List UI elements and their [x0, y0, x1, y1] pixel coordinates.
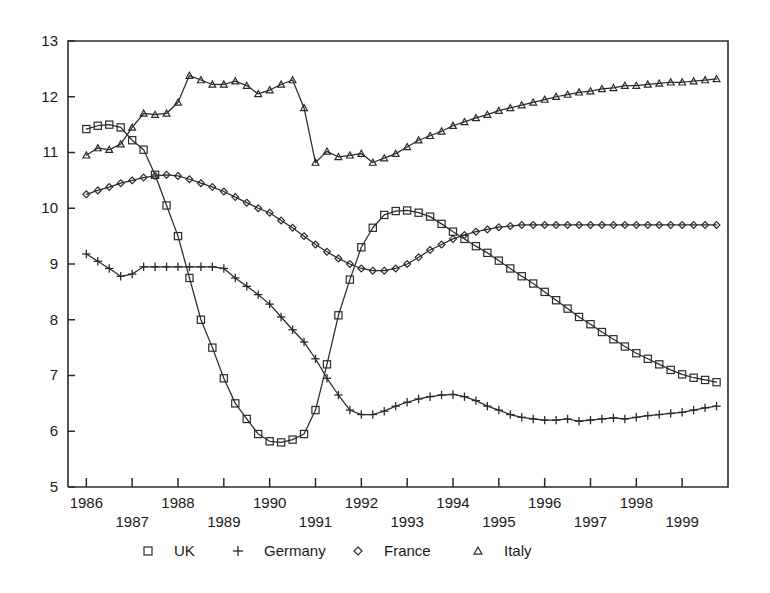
- legend-label: UK: [174, 542, 195, 559]
- x-tick-label: 1989: [207, 513, 240, 530]
- x-tick-label: 1999: [665, 513, 698, 530]
- x-axis-ticks: 1986198719881989199019911992199319941995…: [70, 478, 699, 530]
- y-tick-label: 12: [41, 88, 58, 105]
- x-tick-label: 1988: [161, 494, 194, 511]
- x-tick-label: 1994: [436, 494, 469, 511]
- y-tick-label: 5: [50, 478, 58, 495]
- series-italy: [83, 72, 720, 165]
- y-tick-label: 6: [50, 422, 58, 439]
- legend-label: France: [384, 542, 431, 559]
- x-tick-label: 1995: [482, 513, 515, 530]
- series-france: [83, 171, 720, 274]
- x-tick-label: 1997: [574, 513, 607, 530]
- chart-figure: 5678910111213 19861987198819891990199119…: [0, 0, 770, 593]
- marker-square: [144, 547, 152, 555]
- marker-triangle: [474, 547, 482, 554]
- legend-item-france: France: [354, 542, 431, 559]
- x-tick-label: 1996: [528, 494, 561, 511]
- y-tick-label: 8: [50, 311, 58, 328]
- legend-item-germany: Germany: [233, 542, 326, 559]
- chart-legend: UKGermanyFranceItaly: [144, 542, 532, 559]
- y-tick-label: 11: [42, 143, 58, 160]
- x-tick-label: 1986: [70, 494, 103, 511]
- x-tick-label: 1991: [299, 513, 332, 530]
- x-tick-label: 1993: [390, 513, 423, 530]
- series-path: [86, 125, 716, 443]
- x-tick-label: 1990: [253, 494, 286, 511]
- y-tick-label: 13: [41, 32, 58, 49]
- line-chart: 5678910111213 19861987198819891990199119…: [0, 0, 770, 593]
- series-uk: [83, 121, 720, 446]
- series-path: [86, 175, 716, 271]
- x-tick-label: 1992: [345, 494, 378, 511]
- x-tick-label: 1998: [620, 494, 653, 511]
- y-axis-ticks: 5678910111213: [41, 32, 75, 495]
- y-tick-label: 7: [50, 366, 58, 383]
- y-tick-label: 10: [41, 199, 58, 216]
- legend-item-italy: Italy: [474, 542, 532, 559]
- x-tick-label: 1987: [115, 513, 148, 530]
- legend-label: Germany: [264, 542, 326, 559]
- series-path: [86, 254, 716, 421]
- series-germany: [82, 250, 721, 426]
- legend-label: Italy: [504, 542, 532, 559]
- series-layer: [82, 72, 721, 446]
- marker-diamond: [354, 547, 362, 555]
- legend-item-uk: UK: [144, 542, 195, 559]
- y-tick-label: 9: [50, 255, 58, 272]
